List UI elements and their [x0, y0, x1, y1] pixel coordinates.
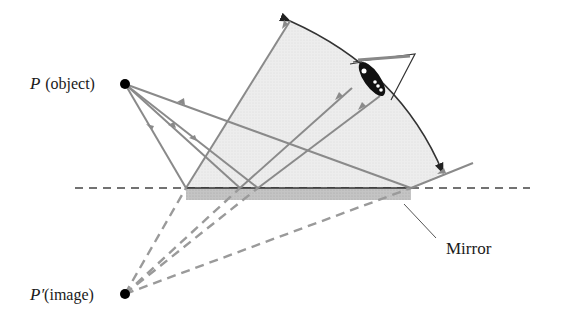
mirror-leader — [404, 204, 436, 238]
image-text: (image) — [44, 286, 94, 303]
image-symbol: P′ — [30, 285, 44, 304]
virtual-rays — [125, 188, 411, 294]
mirror — [186, 188, 411, 200]
object-symbol: P — [30, 74, 40, 93]
mirror-label: Mirror — [446, 240, 491, 257]
object-label: P (object) — [30, 75, 95, 92]
object-text: (object) — [45, 75, 95, 92]
image-point — [120, 289, 130, 299]
plane-mirror-diagram: P (object) P′(image) Mirror — [0, 0, 562, 322]
diagram-canvas — [0, 0, 562, 322]
image-label: P′(image) — [30, 286, 94, 303]
object-point — [120, 79, 130, 89]
